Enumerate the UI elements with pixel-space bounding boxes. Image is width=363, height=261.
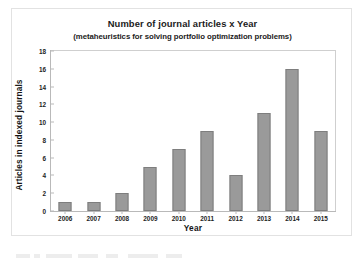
x-axis-tick-mark [150,211,151,214]
x-axis-tick-label: 2013 [257,215,271,222]
bar-2007 [87,202,100,211]
bar-2006 [59,202,72,211]
y-axis-tick-mark [51,139,54,140]
bar-2014 [286,69,299,211]
x-axis-tick-label: 2007 [86,215,100,222]
x-axis-tick-mark [65,211,66,214]
x-axis-tick-label: 2006 [58,215,72,222]
x-axis-tick-mark [264,211,265,214]
title-block: Number of journal articles x Year (metah… [12,18,353,42]
x-axis-tick-label: 2010 [172,215,186,222]
scan-streak [106,254,118,258]
x-axis-tick-label: 2015 [314,215,328,222]
y-axis-tick-label: 8 [42,136,51,143]
x-axis-tick-label: 2011 [200,215,214,222]
y-axis-tick-mark [51,193,54,194]
chart-title: Number of journal articles x Year [12,18,353,30]
y-axis-tick-mark [51,122,54,123]
scan-streak [34,254,40,258]
bar-2008 [116,193,129,211]
scan-artifact [16,252,216,261]
scan-streak [128,254,158,258]
bar-2013 [258,113,271,211]
x-axis-title: Year [50,223,336,233]
x-axis-tick-mark [292,211,293,214]
x-axis-tick-mark [235,211,236,214]
x-axis-tick-mark [207,211,208,214]
y-axis-tick-label: 12 [39,101,51,108]
y-axis-tick-label: 18 [39,48,51,55]
figure-panel: Number of journal articles x Year (metah… [11,8,352,236]
x-axis-tick-label: 2009 [143,215,157,222]
plot-area: 0246810121416182006200720082009201020112… [50,50,336,212]
y-axis-title: Articles in indexed journals [12,55,26,215]
bar-2010 [172,149,185,211]
y-axis-tick-label: 6 [42,154,51,161]
x-axis-tick-mark [178,211,179,214]
scan-streak [16,254,30,258]
chart-subtitle: (metaheuristics for solving portfolio op… [12,31,353,42]
bar-2012 [229,175,242,211]
y-axis-tick-label: 14 [39,83,51,90]
y-axis-tick-mark [51,104,54,105]
scan-streak [166,254,182,258]
bar-2009 [144,167,157,211]
y-axis-tick-label: 10 [39,119,51,126]
x-axis-tick-mark [93,211,94,214]
y-axis-tick-label: 16 [39,65,51,72]
y-axis-tick-mark [51,175,54,176]
y-axis-title-text: Articles in indexed journals [14,79,24,190]
bar-2011 [201,131,214,211]
y-axis-tick-label: 0 [42,208,51,215]
y-axis-tick-label: 4 [42,172,51,179]
y-axis-tick-mark [51,157,54,158]
scan-streak [46,254,72,258]
x-axis-tick-label: 2012 [228,215,242,222]
y-axis-tick-label: 2 [42,190,51,197]
x-axis-tick-mark [122,211,123,214]
y-axis-tick-mark [51,51,54,52]
y-axis-tick-mark [51,211,54,212]
x-axis-tick-label: 2008 [115,215,129,222]
y-axis-tick-mark [51,68,54,69]
y-axis-tick-mark [51,86,54,87]
scan-streak [78,254,98,258]
bar-2015 [314,131,327,211]
x-axis-tick-label: 2014 [285,215,299,222]
x-axis-tick-mark [320,211,321,214]
